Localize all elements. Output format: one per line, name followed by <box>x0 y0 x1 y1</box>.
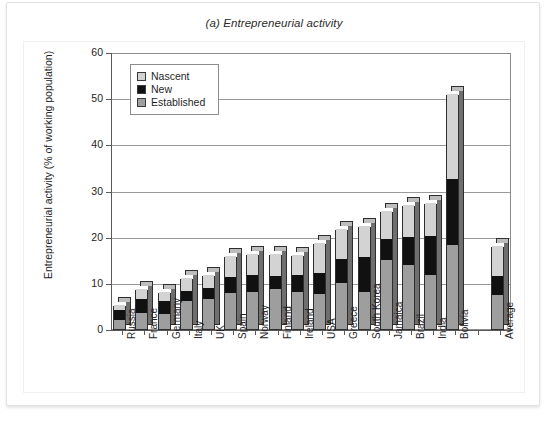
x-axis-tick <box>233 330 234 335</box>
bar-top-face <box>118 297 131 302</box>
legend-item-established[interactable]: Established <box>137 96 212 109</box>
bar-segment-established <box>136 313 147 329</box>
x-axis-label: Spain <box>237 313 248 339</box>
y-axis-tick <box>106 53 111 54</box>
bar-front-face <box>135 290 148 330</box>
stacked-bar-chart: 0102030405060 Entrepreneurial activity (… <box>7 3 541 407</box>
y-axis-tick <box>106 284 111 285</box>
x-axis-label: USA <box>326 318 337 339</box>
bar-segment-established <box>403 265 414 329</box>
x-axis-tick <box>300 330 301 335</box>
bar-front-face <box>269 255 282 330</box>
x-axis-label: Greece <box>348 306 359 339</box>
x-axis-label: Norway <box>259 305 270 339</box>
y-axis-tick-label: 20 <box>63 231 103 243</box>
bar-segment-established <box>292 292 303 329</box>
bar-segment-new <box>225 277 236 294</box>
x-axis-tick <box>211 330 212 335</box>
bar-bolivia[interactable] <box>446 90 464 330</box>
bar-segment-new <box>314 273 325 294</box>
bar-front-face <box>446 95 459 330</box>
bar-segment-new <box>492 276 503 295</box>
legend-item-new[interactable]: New <box>137 83 212 96</box>
bar-segment-nascent <box>492 246 503 276</box>
bar-segment-nascent <box>136 289 147 299</box>
x-axis-tick <box>455 330 456 335</box>
bar-segment-established <box>247 292 258 329</box>
bar-top-face <box>363 218 376 223</box>
x-axis-label: Brazil <box>415 314 426 339</box>
y-axis-tick-label: 50 <box>63 92 103 104</box>
bar-segment-nascent <box>403 205 414 236</box>
x-axis-label: Italy <box>193 321 204 339</box>
bar-segment-established <box>270 289 281 329</box>
bar-segment-established <box>159 314 170 329</box>
bar-segment-new <box>136 299 147 313</box>
legend-swatch-icon <box>137 72 146 81</box>
x-axis-tick <box>278 330 279 335</box>
bar-side-face <box>215 271 220 325</box>
bar-segment-established <box>314 294 325 329</box>
x-axis-label: France <box>148 308 159 339</box>
x-axis-label: Ireland <box>304 308 315 339</box>
bar-segment-established <box>359 292 370 329</box>
bar-segment-nascent <box>314 243 325 273</box>
bar-front-face <box>313 244 326 330</box>
bar-segment-established <box>381 260 392 329</box>
y-axis-tick <box>106 192 111 193</box>
bar-top-face <box>296 247 309 252</box>
bar-india[interactable] <box>424 199 442 330</box>
bar-top-face <box>251 246 264 251</box>
bar-segment-nascent <box>114 305 125 309</box>
legend-item-label: Nascent <box>151 70 190 83</box>
y-axis-tick <box>106 99 111 100</box>
bar-segment-new <box>270 276 281 289</box>
bar-segment-nascent <box>359 226 370 257</box>
bar-segment-new <box>359 257 370 292</box>
bar-segment-established <box>336 283 347 329</box>
bar-front-face <box>158 293 171 330</box>
bar-usa[interactable] <box>313 239 331 330</box>
x-axis-tick <box>189 330 190 335</box>
bar-segment-nascent <box>159 292 170 301</box>
bar-segment-nascent <box>247 254 258 275</box>
bar-top-face <box>140 281 153 286</box>
bar-segment-new <box>447 179 458 245</box>
bar-side-face <box>415 201 420 325</box>
bar-segment-nascent <box>292 255 303 275</box>
bar-top-face <box>185 270 198 275</box>
bar-segment-established <box>181 301 192 329</box>
bar-front-face <box>424 204 437 330</box>
bar-uk[interactable] <box>202 271 220 330</box>
bar-segment-new <box>203 288 214 299</box>
bar-segment-new <box>425 236 436 275</box>
bar-top-face <box>207 267 220 272</box>
x-axis-label: Average <box>504 302 515 339</box>
bar-segment-nascent <box>225 256 236 277</box>
bar-top-face <box>451 86 464 91</box>
x-axis-tick <box>500 330 501 335</box>
y-axis-tick-label: 30 <box>63 185 103 197</box>
bar-segment-new <box>159 301 170 314</box>
bar-segment-established <box>425 275 436 329</box>
legend-swatch-icon <box>137 85 146 94</box>
y-axis-tick <box>106 238 111 239</box>
x-axis-tick <box>167 330 168 335</box>
x-axis-tick <box>255 330 256 335</box>
bar-segment-new <box>181 291 192 301</box>
bar-front-face <box>113 306 126 330</box>
y-axis-tick-label: 0 <box>63 323 103 335</box>
y-axis-tick-labels: 0102030405060 <box>59 3 103 407</box>
x-axis-label: Russia <box>126 308 137 339</box>
bar-segment-nascent <box>447 94 458 180</box>
bar-segment-established <box>492 295 503 329</box>
bar-segment-nascent <box>336 229 347 259</box>
x-axis-label: Finland <box>282 306 293 339</box>
bar-segment-nascent <box>181 278 192 291</box>
x-axis-label: India <box>437 317 448 339</box>
legend-item-nascent[interactable]: Nascent <box>137 70 212 83</box>
bar-front-face <box>358 227 371 330</box>
legend-item-label: Established <box>151 96 205 109</box>
x-axis-label: Jamaica <box>393 302 404 339</box>
bar-brazil[interactable] <box>402 201 420 330</box>
